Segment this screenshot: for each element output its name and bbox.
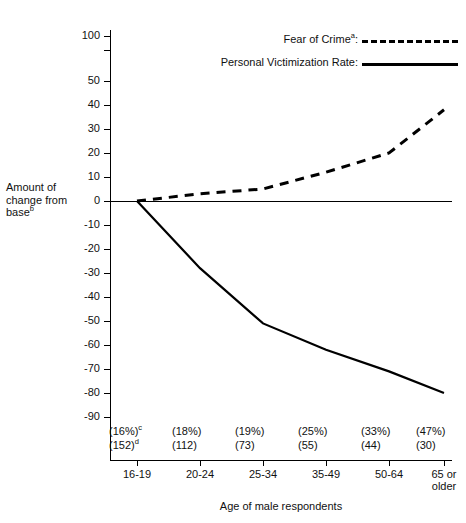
chart-figure: Fear of Crimea: Personal Victimization R… xyxy=(0,0,466,523)
plot-area xyxy=(0,0,466,523)
series-line-fear-of-crime xyxy=(137,110,444,201)
series-line-personal-victimization-rate xyxy=(137,201,444,393)
